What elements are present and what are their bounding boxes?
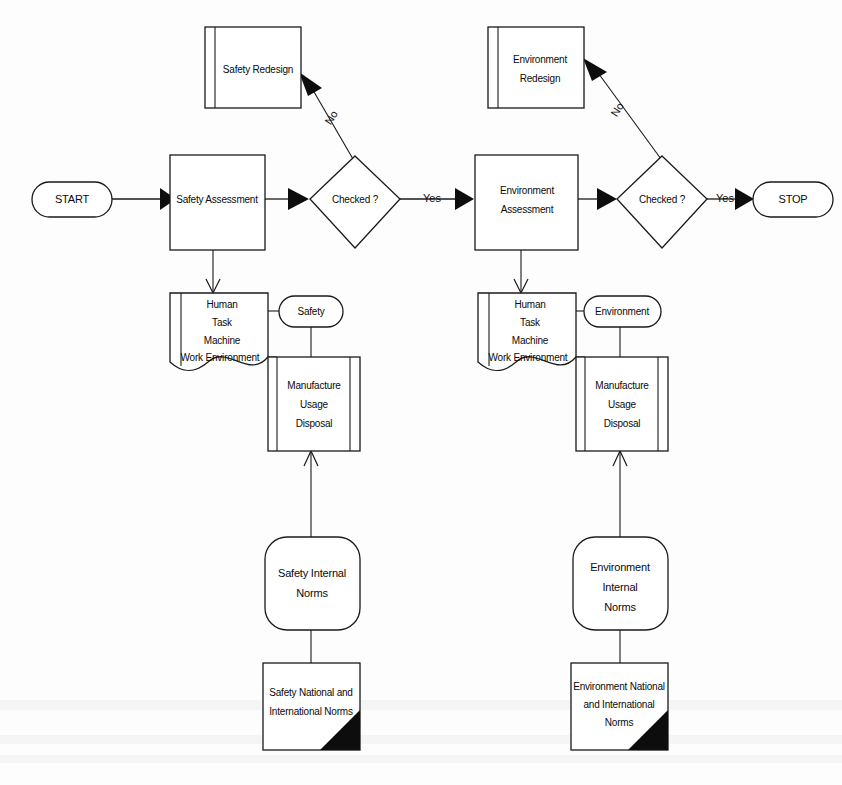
edge-label-environment-yes: Yes [716, 192, 734, 204]
node-environment-assessment[interactable]: Environment Assessment [475, 155, 578, 250]
node-stop-label: STOP [779, 193, 808, 205]
scan-artifacts [0, 700, 842, 763]
node-safety-external-norms[interactable]: Safety National and International Norms [263, 663, 360, 750]
node-safety-internal-norms-line-1: Safety Internal [278, 567, 346, 579]
node-environment-lifecycle-line-2: Usage [608, 399, 637, 410]
flowchart-canvas: START Safety Redesign Safety Assessment … [0, 0, 842, 785]
node-safety-inputs[interactable]: Human Task Machine Work Environment [170, 293, 268, 371]
node-environment-assessment-line-2: Assessment [501, 204, 554, 215]
node-environment-internal-norms[interactable]: Environment Internal Norms [573, 537, 668, 630]
node-safety-checked-label: Checked ? [332, 194, 379, 205]
node-environment-redesign[interactable]: Environment Redesign [488, 27, 584, 108]
node-environment-lifecycle[interactable]: Manufacture Usage Disposal [576, 357, 668, 451]
node-environment-inputs-line-2: Task [520, 317, 541, 328]
node-safety-assessment-label: Safety Assessment [176, 194, 258, 205]
node-safety-lifecycle-line-1: Manufacture [287, 380, 341, 391]
node-safety-inputs-line-4: Work Environment [181, 352, 260, 363]
node-environment-lifecycle-line-1: Manufacture [595, 380, 649, 391]
node-safety-tag[interactable]: Safety [279, 296, 343, 327]
node-environment-inputs-line-1: Human [514, 299, 545, 310]
node-safety-internal-norms[interactable]: Safety Internal Norms [265, 537, 360, 630]
node-environment-checked-label: Checked ? [639, 194, 686, 205]
node-environment-external-norms-line-1: Environment National [573, 681, 665, 692]
node-safety-lifecycle-line-3: Disposal [296, 418, 333, 429]
node-environment-external-norms-line-2: and International [583, 699, 654, 710]
node-environment-redesign-line-1: Environment [513, 54, 567, 65]
edge-label-environment-no: No [608, 100, 626, 118]
node-safety-checked[interactable]: Checked ? [310, 156, 400, 248]
node-start[interactable]: START [32, 182, 112, 217]
flowchart-svg: START Safety Redesign Safety Assessment … [0, 0, 842, 785]
node-environment-lifecycle-line-3: Disposal [604, 418, 641, 429]
node-stop[interactable]: STOP [753, 182, 833, 217]
node-environment-inputs-line-4: Work Environment [489, 352, 568, 363]
node-safety-inputs-line-2: Task [212, 317, 233, 328]
edge-label-safety-yes: Yes [423, 192, 441, 204]
node-safety-inputs-line-3: Machine [204, 335, 241, 346]
node-environment-external-norms[interactable]: Environment National and International N… [571, 663, 668, 750]
node-environment-internal-norms-line-2: Internal [602, 581, 637, 593]
node-safety-external-norms-line-2: International Norms [269, 706, 353, 717]
node-environment-tag-label: Environment [595, 306, 649, 317]
node-safety-assessment[interactable]: Safety Assessment [170, 155, 265, 250]
node-safety-lifecycle[interactable]: Manufacture Usage Disposal [268, 357, 360, 451]
node-environment-redesign-line-2: Redesign [520, 73, 561, 84]
node-safety-external-norms-line-1: Safety National and [269, 687, 352, 698]
node-safety-tag-label: Safety [297, 306, 324, 317]
node-safety-redesign[interactable]: Safety Redesign [205, 27, 301, 108]
node-environment-internal-norms-line-3: Norms [604, 601, 636, 613]
node-environment-inputs[interactable]: Human Task Machine Work Environment [478, 293, 576, 371]
node-start-label: START [55, 193, 90, 205]
node-safety-internal-norms-line-2: Norms [296, 587, 328, 599]
node-safety-redesign-label: Safety Redesign [223, 64, 293, 75]
node-environment-tag[interactable]: Environment [584, 296, 661, 327]
node-environment-assessment-line-1: Environment [500, 185, 554, 196]
node-safety-inputs-line-1: Human [206, 299, 237, 310]
node-safety-lifecycle-line-2: Usage [300, 399, 329, 410]
node-environment-checked[interactable]: Checked ? [617, 156, 707, 248]
node-environment-external-norms-line-3: Norms [605, 717, 634, 728]
node-environment-internal-norms-line-1: Environment [590, 561, 650, 573]
node-environment-inputs-line-3: Machine [512, 335, 549, 346]
